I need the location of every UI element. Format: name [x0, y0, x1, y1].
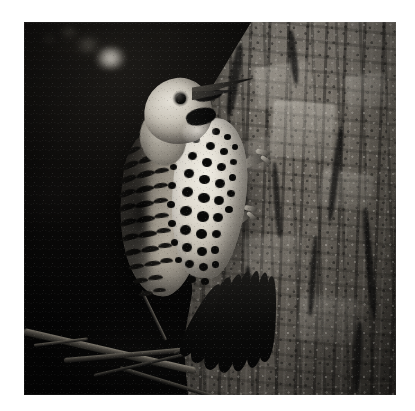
bird-eye: [175, 93, 186, 104]
bird-edge-shadow: [112, 130, 148, 300]
woodpecker-bird: [24, 22, 396, 395]
breast-spot: [225, 206, 233, 213]
breast-spot: [229, 174, 236, 181]
photograph: [24, 22, 396, 395]
breast-spot: [212, 261, 219, 268]
breast-spot: [188, 276, 197, 284]
breast-spot: [232, 144, 238, 150]
screenshot-canvas: [0, 0, 415, 411]
breast-spot: [201, 278, 209, 285]
breast-spot: [224, 134, 231, 140]
